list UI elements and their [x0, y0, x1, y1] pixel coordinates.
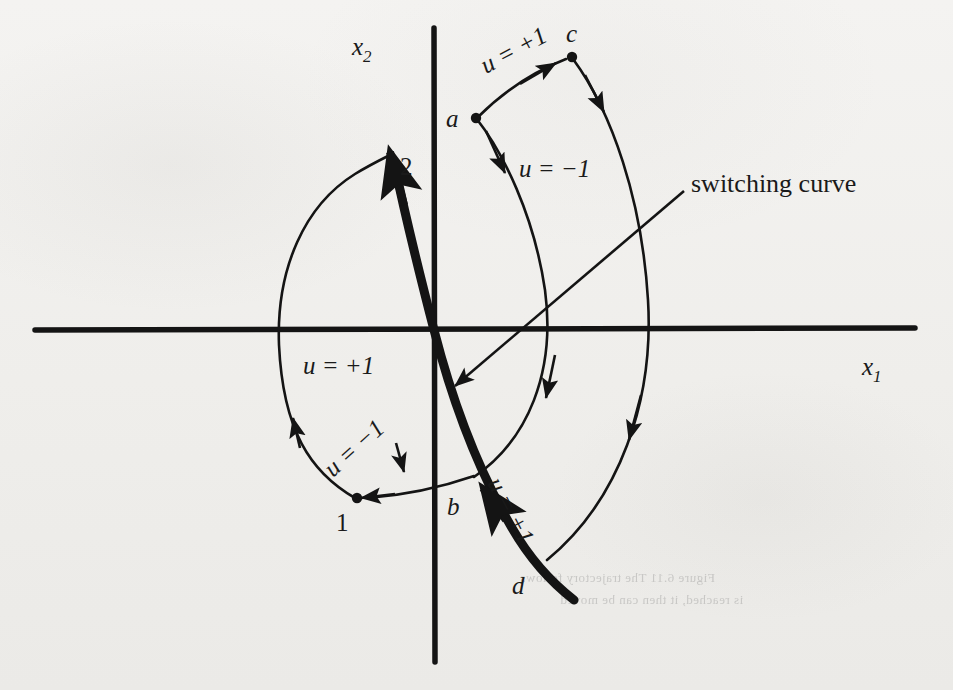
point-dot-c	[567, 52, 577, 62]
point-dot-1	[352, 493, 362, 503]
point-label-c: c	[566, 20, 577, 47]
arrow-a-to-b-upper	[486, 131, 505, 173]
control-label-u-minus-1-lower: u = −1	[318, 414, 389, 482]
point-labels: a c b d 1 2	[336, 20, 577, 599]
arrow-c-to-d-upper	[585, 75, 604, 112]
control-label-u-plus-1-lower-right: u = +1	[483, 473, 540, 549]
arrow-a-to-c	[520, 63, 556, 84]
arrow-1-to-2	[293, 418, 300, 448]
point-label-1: 1	[336, 509, 349, 536]
arrow-a-to-b-lower	[546, 355, 555, 398]
point-dot-a	[471, 113, 481, 123]
x2-axis-label: x2	[351, 33, 372, 66]
arrow-c-to-d-lower	[629, 395, 641, 440]
point-label-d: d	[512, 572, 525, 599]
switching-curve-leader	[455, 191, 684, 386]
switching-curve	[390, 152, 574, 600]
phase-plane-figure: Figure 6.11 The trajectory follows is re…	[0, 0, 953, 690]
u-minus-1-direction-arrow	[396, 443, 404, 472]
x1-axis-label: x1	[861, 353, 882, 386]
trajectory-c-to-d	[547, 59, 649, 560]
x1-axis	[35, 328, 915, 330]
point-label-b: b	[447, 493, 460, 520]
diagram-canvas: x2 x1 a c b d 1 2 u = +1 u = −1 u = +1 u…	[0, 0, 953, 690]
point-label-a: a	[446, 105, 459, 132]
control-labels: u = +1 u = −1 u = +1 u = −1 u = +1	[303, 21, 590, 548]
control-label-u-minus-1-upper: u = −1	[519, 155, 590, 182]
control-label-u-plus-1-left: u = +1	[303, 352, 374, 379]
switching-curve-label: switching curve	[691, 169, 856, 198]
point-label-2: 2	[400, 153, 413, 180]
